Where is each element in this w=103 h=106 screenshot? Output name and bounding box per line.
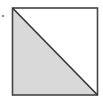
diagram-canvas [0, 0, 103, 106]
marker-dot [2, 15, 4, 17]
